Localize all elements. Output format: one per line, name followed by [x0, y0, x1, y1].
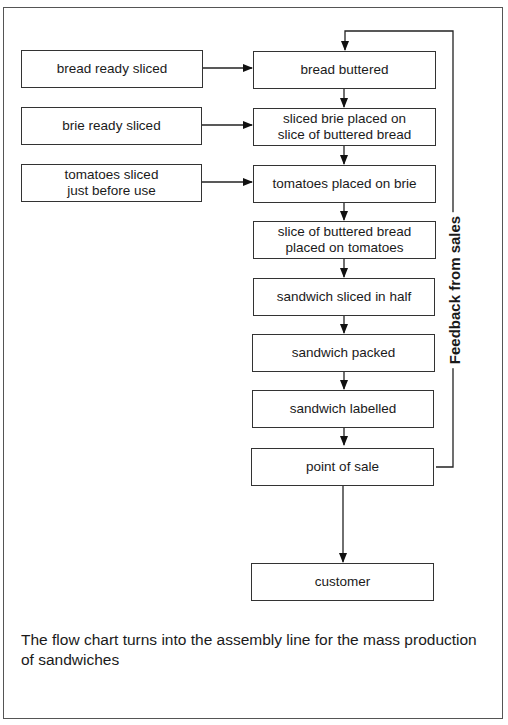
- step-customer: customer: [251, 563, 434, 601]
- step-sandwich-labelled: sandwich labelled: [252, 390, 434, 428]
- step-tomatoes-placed: tomatoes placed on brie: [253, 165, 436, 203]
- input-tomatoes-sliced: tomatoes sliced just before use: [21, 164, 202, 202]
- step-sandwich-sliced: sandwich sliced in half: [253, 278, 435, 316]
- figure-caption: The flow chart turns into the assembly l…: [21, 630, 481, 670]
- feedback-label: Feedback from sales: [446, 212, 463, 368]
- step-bread-buttered: bread buttered: [253, 51, 436, 89]
- step-brie-placed: sliced brie placed on slice of buttered …: [253, 108, 436, 146]
- input-brie-ready-sliced: brie ready sliced: [21, 107, 202, 145]
- input-bread-ready-sliced: bread ready sliced: [21, 50, 203, 88]
- step-point-of-sale: point of sale: [251, 448, 434, 486]
- step-sandwich-packed: sandwich packed: [252, 334, 435, 372]
- step-top-bread-placed: slice of buttered bread placed on tomato…: [253, 221, 436, 259]
